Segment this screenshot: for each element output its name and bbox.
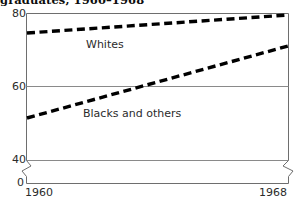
x-tick-label-start: 1960: [25, 186, 53, 199]
series-label-whites: Whites: [86, 38, 124, 51]
y-tick-label-40: 40: [12, 153, 26, 166]
baseline-axis: [27, 177, 289, 184]
y-tick-label-60: 60: [12, 80, 26, 93]
series-line-whites: [27, 15, 288, 33]
series-label-blacks-and-others: Blacks and others: [83, 107, 181, 120]
gridlines: [27, 87, 289, 161]
y-tick-label-0: 0: [17, 176, 24, 189]
line-chart-figure: [0, 0, 305, 202]
y-tick-label-80: 80: [12, 7, 26, 20]
axis-break-marks: [22, 161, 293, 177]
x-tick-label-end: 1968: [259, 186, 287, 199]
